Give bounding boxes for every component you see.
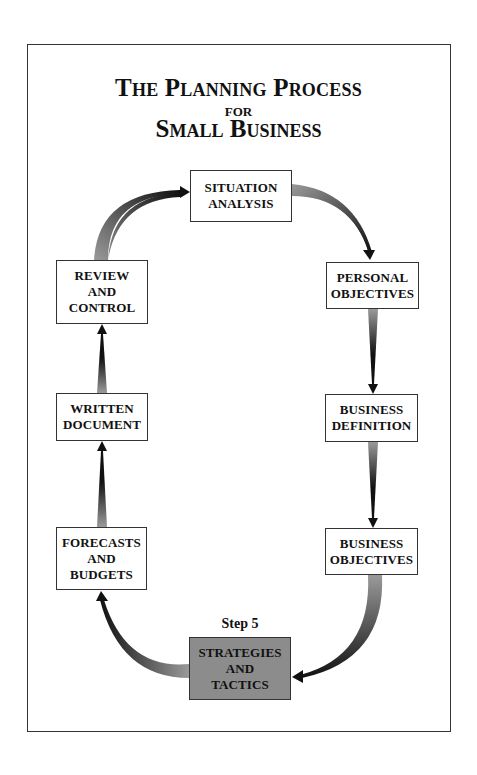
arrow-personal-to-definition: [368, 309, 378, 394]
arrow-objectives-to-strategies: [292, 575, 382, 683]
step-label-line: REVIEW: [75, 268, 130, 284]
step-label-line: STRATEGIES: [198, 645, 281, 661]
step-label-line: DEFINITION: [332, 418, 412, 434]
step-situation-analysis: SITUATION ANALYSIS: [190, 170, 292, 222]
step-forecasts-and-budgets: FORECASTS AND BUDGETS: [56, 527, 147, 590]
step-label-line: AND: [88, 284, 116, 300]
arrow-forecasts-to-written: [97, 441, 107, 527]
arrow-review-to-situation: [94, 186, 190, 260]
arrow-definition-to-objectives: [368, 442, 378, 528]
arrow-written-to-review: [97, 324, 107, 393]
step-label-line: OBJECTIVES: [331, 286, 414, 302]
step-review-and-control: REVIEW AND CONTROL: [56, 260, 148, 324]
step-label-line: OBJECTIVES: [330, 552, 413, 568]
step-label-line: TACTICS: [211, 677, 269, 693]
step-strategies-and-tactics: STRATEGIES AND TACTICS: [189, 637, 291, 700]
current-step-label: Step 5: [189, 616, 291, 632]
step-business-objectives: BUSINESS OBJECTIVES: [325, 528, 418, 575]
step-label-line: BUSINESS: [340, 536, 404, 552]
step-written-document: WRITTEN DOCUMENT: [56, 393, 148, 441]
step-label-line: WRITTEN: [70, 401, 134, 417]
step-business-definition: BUSINESS DEFINITION: [325, 394, 418, 442]
step-label-line: DOCUMENT: [63, 417, 141, 433]
step-label-line: ANALYSIS: [208, 196, 273, 212]
step-label-line: AND: [87, 551, 115, 567]
step-personal-objectives: PERSONAL OBJECTIVES: [326, 262, 419, 309]
step-label-line: BUSINESS: [340, 402, 404, 418]
step-label-line: BUDGETS: [70, 567, 133, 583]
arrow-situation-to-personal: [292, 184, 375, 260]
step-label-line: SITUATION: [205, 180, 278, 196]
step-label-line: AND: [226, 661, 254, 677]
step-label-line: FORECASTS: [62, 535, 141, 551]
arrow-strategies-to-forecasts: [96, 591, 189, 678]
step-label-line: PERSONAL: [337, 270, 409, 286]
step-label-line: CONTROL: [69, 300, 135, 316]
